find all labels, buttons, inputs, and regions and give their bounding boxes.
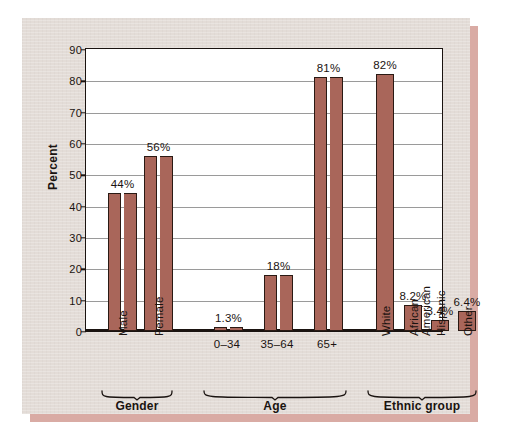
y-tick-label-10: 10: [69, 295, 82, 307]
bar-value-label-male: 44%: [111, 178, 135, 190]
y-tick-label-0: 0: [76, 326, 82, 338]
bar-age-35-64: [280, 275, 293, 331]
group-label-age: Age: [263, 399, 286, 413]
bar-value-label-0-34: 1.3%: [215, 312, 242, 324]
figure-bar-chart: Percent 010203040506070809044%56%1.3%18%…: [0, 0, 512, 446]
bar-age-0-34: [230, 327, 243, 331]
category-label-65: 65+: [317, 338, 337, 350]
category-label-male: Male: [117, 310, 129, 336]
bar-age-65: [330, 77, 343, 331]
bar-value-label-65: 81%: [317, 62, 341, 74]
bar-age-65: [314, 77, 327, 331]
category-label-african: African: [408, 299, 420, 336]
group-label-ethnic-group: Ethnic group: [384, 399, 460, 413]
category-label-american: American: [420, 286, 432, 336]
category-label-other: Other: [462, 306, 474, 336]
category-label-hispanic: Hispanic: [435, 290, 447, 336]
y-tick-label-60: 60: [69, 138, 82, 150]
bar-age-0-34: [214, 327, 227, 331]
bar-age-35-64: [264, 275, 277, 331]
y-tick-label-80: 80: [69, 75, 82, 87]
bar-value-label-female: 56%: [147, 141, 171, 153]
category-label-35-64: 35–64: [261, 338, 294, 350]
y-axis-title: Percent: [46, 144, 60, 190]
y-tick-label-20: 20: [69, 263, 82, 275]
bar-ethnic-group-white: [376, 74, 394, 331]
y-tick-label-30: 30: [69, 232, 82, 244]
plot-area: 010203040506070809044%56%1.3%18%81%82%8.…: [85, 48, 443, 332]
bar-value-label-35-64: 18%: [267, 260, 291, 272]
bar-value-label-white: 82%: [373, 59, 397, 71]
y-tick-label-70: 70: [69, 107, 82, 119]
category-label-0-34: 0–34: [214, 338, 240, 350]
category-label-female: Female: [153, 296, 165, 336]
category-label-white: White: [380, 306, 392, 336]
y-tick-label-90: 90: [69, 44, 82, 56]
group-label-gender: Gender: [115, 399, 158, 413]
y-tick-label-50: 50: [69, 169, 82, 181]
y-tick-label-40: 40: [69, 201, 82, 213]
